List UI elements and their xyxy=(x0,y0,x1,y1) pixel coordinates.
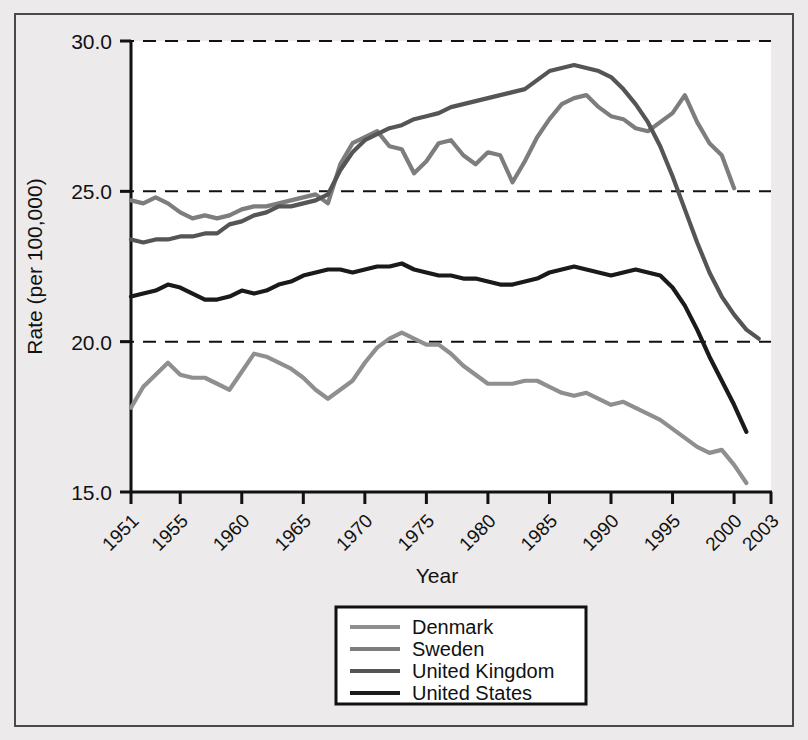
x-tick-label: 1951 xyxy=(98,510,143,555)
x-tick-label: 2003 xyxy=(738,510,783,555)
x-tick-label: 2000 xyxy=(701,510,746,555)
x-tick-label: 1975 xyxy=(393,510,438,555)
y-tick-label: 30.0 xyxy=(71,30,112,53)
x-tick-label: 1980 xyxy=(455,510,500,555)
y-axis-title: Rate (per 100,000) xyxy=(23,178,46,354)
line-chart: 30.025.020.015.0 19511955196019651970197… xyxy=(0,0,808,740)
x-tick-label: 1990 xyxy=(578,510,623,555)
legend-label: Denmark xyxy=(412,616,494,638)
legend-label: Sweden xyxy=(412,638,484,660)
y-tick-label: 25.0 xyxy=(71,180,112,203)
x-tick-label: 1965 xyxy=(270,510,315,555)
x-tick-label: 1955 xyxy=(147,510,192,555)
x-axis-title-text: Year xyxy=(416,564,458,587)
x-axis-ticks: 1951195519601965197019751980198519901995… xyxy=(98,492,783,555)
y-tick-label: 20.0 xyxy=(71,331,112,354)
y-axis-ticks: 30.025.020.015.0 xyxy=(71,30,131,504)
chart-page: 30.025.020.015.0 19511955196019651970197… xyxy=(0,0,808,740)
x-axis-title: Year xyxy=(416,564,458,587)
chart-legend: DenmarkSwedenUnited KingdomUnited States xyxy=(336,607,586,704)
legend-label: United Kingdom xyxy=(412,660,554,682)
x-tick-label: 1960 xyxy=(209,510,254,555)
legend-label: United States xyxy=(412,682,532,704)
y-tick-label: 15.0 xyxy=(71,481,112,504)
x-tick-label: 1995 xyxy=(640,510,685,555)
y-axis-title-text: Rate (per 100,000) xyxy=(23,178,46,354)
x-tick-label: 1985 xyxy=(517,510,562,555)
x-tick-label: 1970 xyxy=(332,510,377,555)
